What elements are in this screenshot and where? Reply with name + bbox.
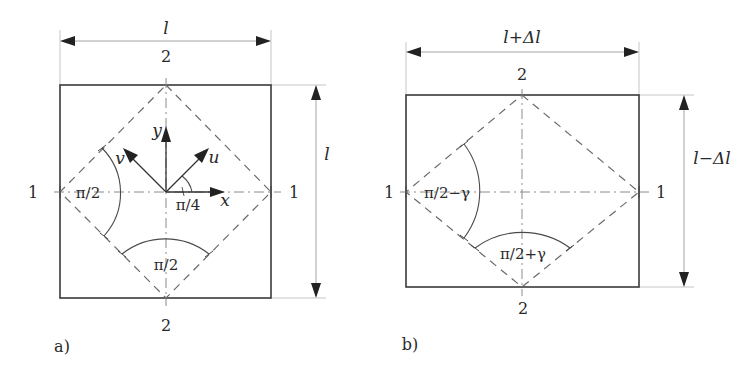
caption-a: a): [54, 337, 70, 356]
figure-b: l+Δl l−Δl 2 2 1 1 π/2−γ π/2+γ b): [384, 27, 731, 354]
caption-b: b): [402, 335, 418, 354]
arrow-left-icon: [60, 36, 75, 46]
height-label: l−Δl: [693, 148, 730, 168]
point-label-left: 1: [28, 183, 38, 202]
arc-tick: [100, 233, 108, 239]
y-arrow-icon: [161, 126, 171, 142]
axis-label-x: x: [220, 190, 230, 210]
arrow-right-icon: [256, 36, 271, 46]
point-label-top: 2: [517, 65, 527, 84]
arrow-up-icon: [679, 95, 689, 110]
figure-a: l l 2 2 1: [28, 18, 330, 356]
u-axis-vector: [166, 154, 204, 192]
arrow-left-icon: [406, 47, 421, 57]
angle-label-bottom: π/2+γ: [500, 245, 546, 263]
point-label-top: 2: [161, 47, 171, 66]
axis-label-v: v: [115, 148, 125, 168]
angle-label-bottom: π/2: [154, 256, 178, 274]
arrow-right-icon: [624, 47, 639, 57]
angle-label-left: π/2: [76, 184, 100, 202]
angle-arc-pi4: [182, 176, 192, 192]
width-label: l+Δl: [503, 27, 540, 47]
diagram-canvas: l l 2 2 1: [0, 0, 753, 374]
point-label-bottom: 2: [518, 299, 528, 318]
arc-tick: [460, 141, 468, 147]
arrow-up-icon: [311, 85, 321, 100]
axis-label-y: y: [151, 120, 162, 140]
width-label: l: [163, 18, 168, 38]
point-label-bottom: 2: [161, 316, 171, 335]
point-label-left: 1: [384, 183, 394, 202]
angle-label-left: π/2−γ: [424, 184, 470, 202]
arrow-down-icon: [679, 272, 689, 287]
u-arrow-icon: [194, 148, 209, 163]
point-label-right: 1: [656, 183, 666, 202]
point-label-right: 1: [289, 183, 299, 202]
arc-tick: [460, 235, 468, 241]
v-axis-vector: [128, 154, 166, 192]
angle-label-pi4: π/4: [176, 196, 200, 214]
arrow-down-icon: [311, 283, 321, 298]
height-label: l: [324, 144, 329, 164]
v-arrow-icon: [123, 148, 138, 163]
axis-label-u: u: [209, 147, 220, 167]
